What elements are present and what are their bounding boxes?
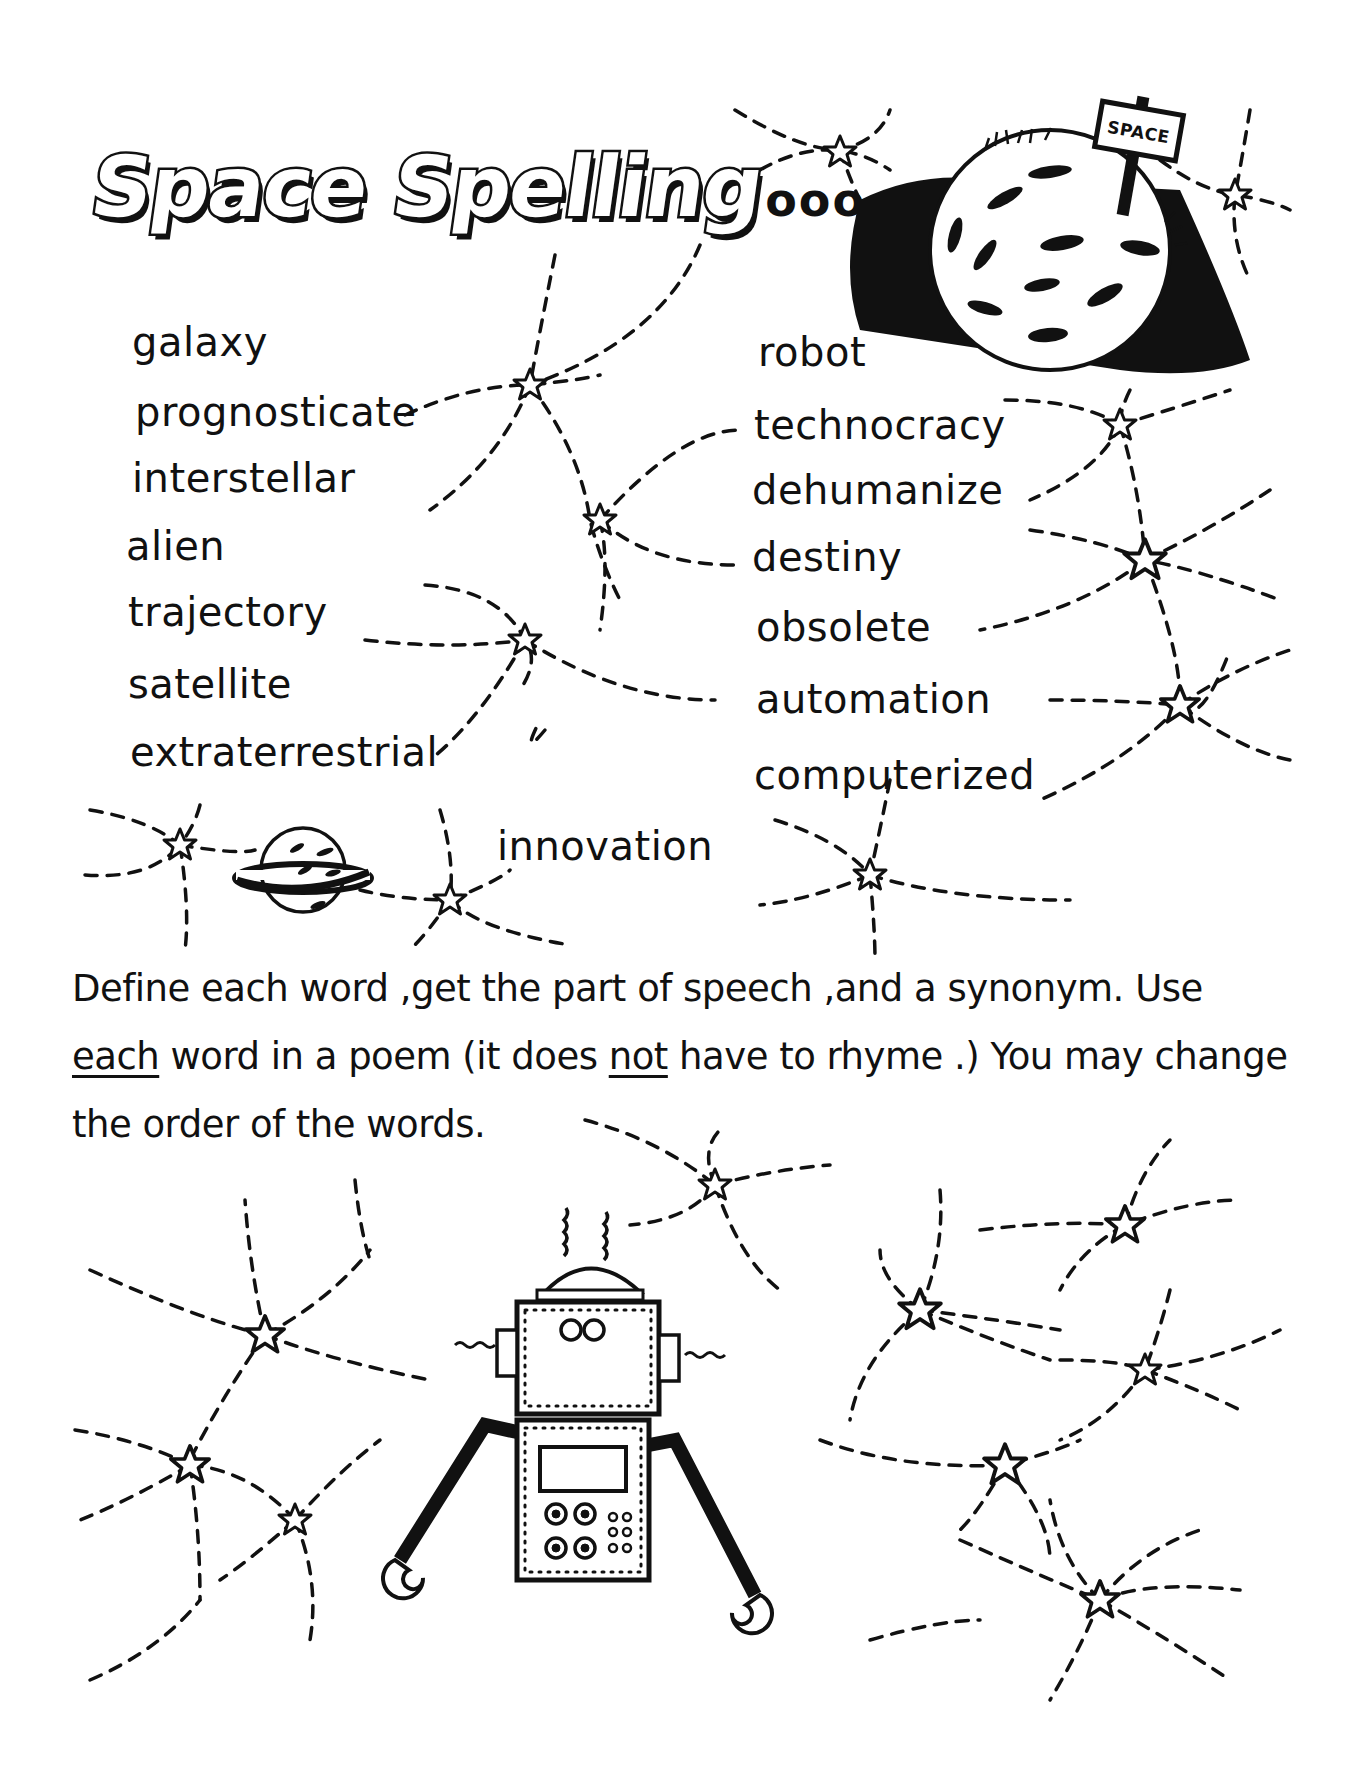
spelling-word: interstellar	[132, 458, 356, 498]
instructions-line-2-text: word in a poem (it does	[159, 1035, 609, 1078]
spelling-word: destiny	[752, 537, 902, 577]
spelling-word: technocracy	[754, 405, 1006, 445]
spelling-word: robot	[758, 332, 866, 372]
ringed-planet-illustration	[235, 828, 371, 912]
moon-illustration	[850, 96, 1250, 373]
spelling-word: prognosticate	[135, 392, 417, 432]
emphasis-each: each	[72, 1035, 159, 1078]
instructions-line-1: Define each word ,get the part of speech…	[72, 955, 1292, 1023]
instructions-line-2-text-end: have to rhyme .) You may change	[668, 1035, 1288, 1078]
spelling-word: computerized	[754, 755, 1035, 795]
instructions-line-2: each word in a poem (it does not have to…	[72, 1023, 1292, 1091]
robot-illustration	[383, 1208, 772, 1633]
title-ellipsis: ooo	[765, 173, 866, 227]
instructions-line-3: the order of the words.	[72, 1091, 1292, 1159]
spelling-word: alien	[126, 526, 225, 566]
spelling-word: dehumanize	[752, 470, 1003, 510]
spelling-word: trajectory	[128, 592, 328, 632]
spelling-word: galaxy	[132, 322, 268, 362]
spelling-word: obsolete	[756, 607, 931, 647]
spelling-word: satellite	[128, 664, 292, 704]
spelling-word-innovation: innovation	[497, 826, 713, 866]
worksheet-title: Space Spellingooo	[92, 145, 866, 229]
spelling-word: automation	[756, 679, 991, 719]
instructions-paragraph: Define each word ,get the part of speech…	[72, 955, 1292, 1159]
spelling-word: extraterrestrial	[130, 732, 438, 772]
space-illustration-layer	[0, 0, 1348, 1778]
emphasis-not: not	[609, 1035, 668, 1078]
title-text: Space Spelling	[86, 145, 767, 229]
